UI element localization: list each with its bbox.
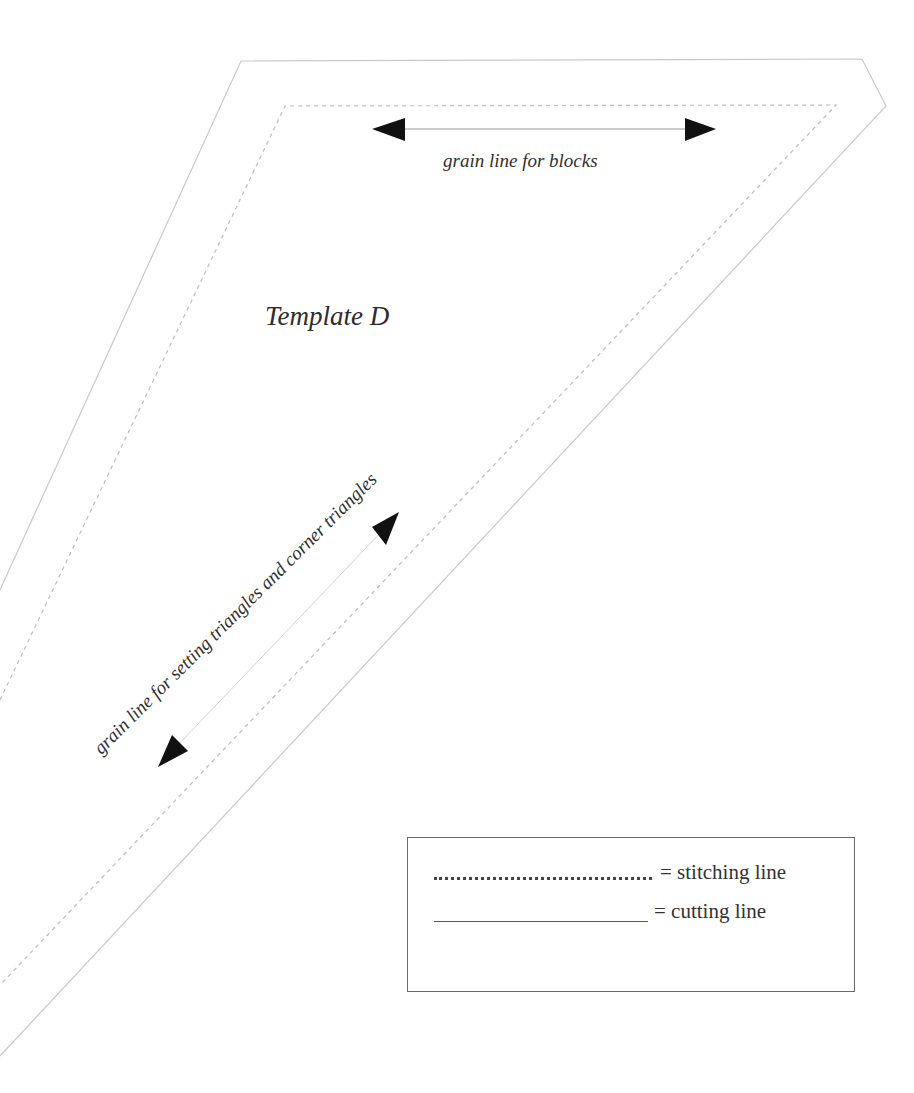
legend-row-stitching: = stitching line — [434, 860, 786, 885]
solid-line-symbol — [434, 902, 648, 922]
grain-line-blocks — [372, 118, 716, 141]
arrow-left-icon — [372, 118, 405, 141]
legend-cutting-label: = cutting line — [654, 899, 766, 924]
template-title: Template D — [265, 301, 389, 332]
arrow-up-right-icon — [372, 512, 399, 545]
arrow-right-icon — [685, 118, 716, 141]
dotted-line-symbol — [434, 860, 652, 880]
legend-stitching-label: = stitching line — [660, 860, 786, 885]
legend-row-cutting: = cutting line — [434, 899, 766, 924]
legend-box: = stitching line = cutting line — [407, 837, 855, 992]
grain-line-blocks-label: grain line for blocks — [443, 150, 598, 172]
